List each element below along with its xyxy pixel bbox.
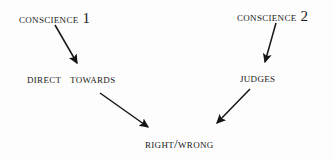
arrow-judges-to-rightwrong — [217, 89, 250, 123]
node-conscience-1-text: CONSCIENCE — [19, 11, 79, 26]
node-conscience-1: CONSCIENCE1 — [19, 11, 90, 26]
node-direct-towards-word1: DIRECT — [27, 71, 61, 86]
node-direct-towards-word2: TOWARDS — [70, 71, 115, 86]
node-conscience-2-numeral: 2 — [297, 8, 309, 24]
node-conscience-1-numeral: 1 — [79, 10, 91, 26]
arrow-conscience2-to-judges — [265, 23, 276, 62]
node-conscience-2: CONSCIENCE2 — [237, 9, 308, 24]
node-direct-towards: DIRECT TOWARDS — [27, 72, 115, 86]
node-judges: JUDGES — [240, 71, 275, 85]
node-judges-text: JUDGES — [240, 70, 275, 85]
arrow-direct-to-rightwrong — [100, 93, 148, 127]
conscience-diagram: CONSCIENCE1 CONSCIENCE2 DIRECT TOWARDS J… — [0, 0, 333, 160]
node-right-wrong-text: RIGHT/WRONG — [145, 136, 214, 151]
node-conscience-2-text: CONSCIENCE — [237, 9, 297, 24]
arrow-conscience1-to-direct — [55, 25, 77, 63]
node-right-wrong: RIGHT/WRONG — [145, 137, 214, 151]
